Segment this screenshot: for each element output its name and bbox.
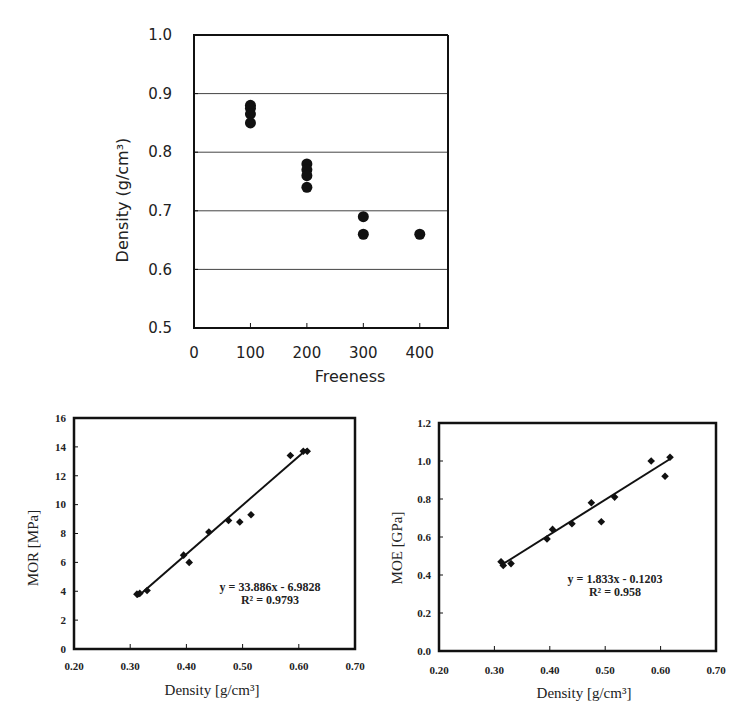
y-tick-label: 8 (61, 527, 67, 539)
data-point (568, 520, 576, 528)
y-tick-label: 1.0 (417, 455, 431, 467)
c2-equation: y = 33.886x - 6.9828 (220, 580, 321, 594)
data-point (414, 229, 425, 240)
y-tick-label: 1.2 (417, 417, 431, 429)
mor-density-plot: 02468101214160.200.300.400.500.600.70 (55, 412, 365, 672)
x-tick-label: 0.70 (345, 660, 365, 672)
y-tick-label: 16 (55, 412, 67, 424)
c2-ylabel: MOR [MPa] (25, 510, 41, 586)
x-tick-label: 0.40 (177, 660, 197, 672)
trendline (137, 449, 307, 597)
y-tick-label: 14 (55, 441, 67, 453)
y-tick-label: 0.2 (417, 607, 431, 619)
y-tick-label: 1.0 (148, 26, 172, 44)
data-point (588, 499, 596, 507)
x-tick-label: 0.30 (485, 664, 505, 676)
y-tick-label: 0.4 (417, 569, 431, 581)
density-freeness-plot: 0.50.60.70.80.91.00100200300400 (148, 26, 448, 362)
y-tick-label: 6 (61, 556, 67, 568)
x-tick-label: 0 (189, 344, 199, 362)
x-tick-label: 0.20 (64, 660, 84, 672)
y-tick-label: 4 (61, 585, 67, 597)
x-tick-label: 300 (349, 344, 378, 362)
x-tick-label: 200 (293, 344, 322, 362)
x-tick-label: 0.60 (651, 664, 671, 676)
x-tick-label: 0.60 (289, 660, 309, 672)
data-point (661, 472, 669, 480)
y-tick-label: 0.6 (148, 261, 172, 279)
y-tick-label: 0.9 (148, 85, 172, 103)
density-freeness-chart: 0.50.60.70.80.91.00100200300400 Density … (0, 0, 750, 725)
data-point (185, 559, 193, 567)
data-point (236, 518, 244, 526)
y-tick-label: 0.7 (148, 202, 172, 220)
x-tick-label: 0.40 (540, 664, 560, 676)
c3-xlabel: Density [g/cm³] (537, 685, 632, 701)
data-point (287, 452, 295, 460)
data-point (358, 229, 369, 240)
data-point (301, 182, 312, 193)
data-point (143, 587, 151, 595)
data-point (358, 211, 369, 222)
trendline (501, 459, 670, 565)
y-tick-label: 0.8 (417, 493, 431, 505)
data-point (303, 447, 311, 455)
y-tick-label: 0.0 (417, 645, 431, 657)
y-tick-label: 0 (61, 643, 67, 655)
c3-equation: y = 1.833x - 0.1203 (568, 572, 663, 586)
data-point (205, 528, 213, 536)
y-tick-label: 0.8 (148, 143, 172, 161)
c1-xlabel: Freeness (315, 367, 386, 386)
x-tick-label: 0.50 (233, 660, 253, 672)
data-point (225, 517, 233, 525)
x-tick-label: 0.50 (596, 664, 616, 676)
x-tick-label: 100 (236, 344, 265, 362)
y-tick-label: 12 (55, 470, 67, 482)
c2-xlabel: Density [g/cm³] (165, 682, 260, 698)
x-tick-label: 0.70 (706, 664, 726, 676)
data-point (598, 518, 606, 526)
y-tick-label: 2 (61, 614, 67, 626)
data-point (301, 170, 312, 181)
x-tick-label: 0.30 (121, 660, 141, 672)
y-tick-label: 0.5 (148, 319, 172, 337)
data-point (647, 457, 655, 465)
plot-frame (194, 35, 448, 328)
moe-density-plot: 0.00.20.40.60.81.01.20.200.300.400.500.6… (417, 417, 726, 676)
y-tick-label: 10 (55, 498, 67, 510)
c3-ylabel: MOE [GPa] (389, 512, 405, 585)
data-point (247, 511, 255, 519)
y-tick-label: 0.6 (417, 531, 431, 543)
data-point (245, 117, 256, 128)
c1-ylabel: Density (g/cm³) (113, 138, 132, 263)
plot-frame (439, 423, 716, 651)
c3-r2: R² = 0.958 (589, 585, 641, 599)
x-tick-label: 0.20 (429, 664, 449, 676)
x-tick-label: 400 (405, 344, 434, 362)
c2-r2: R² = 0.9793 (241, 593, 299, 607)
plot-frame (74, 418, 355, 649)
data-point (543, 535, 551, 543)
